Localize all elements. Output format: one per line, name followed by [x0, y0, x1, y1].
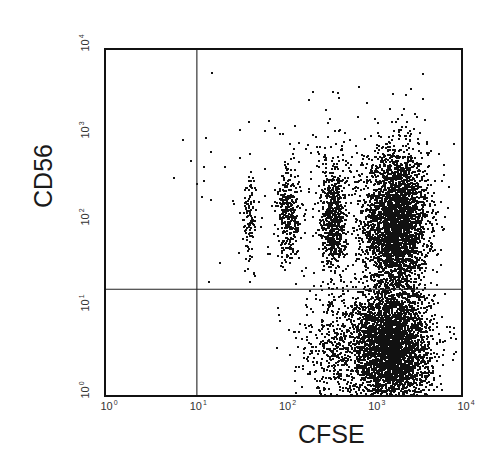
x-tick-label: 103 — [368, 399, 385, 412]
x-tick-label: 104 — [457, 399, 474, 412]
x-axis-label: CFSE — [298, 420, 365, 449]
x-tick-label: 100 — [100, 399, 117, 412]
y-tick-label: 102 — [78, 208, 91, 225]
y-tick-label: 103 — [78, 121, 91, 138]
y-tick-label: 104 — [78, 34, 91, 51]
x-tick-label: 102 — [279, 399, 296, 412]
y-axis-label: CD56 — [29, 141, 58, 211]
y-tick-label: 100 — [78, 381, 91, 398]
y-tick-label: 101 — [78, 295, 91, 312]
x-tick-label: 101 — [190, 399, 207, 412]
scatter-plot — [0, 0, 492, 470]
data-points — [173, 72, 457, 396]
